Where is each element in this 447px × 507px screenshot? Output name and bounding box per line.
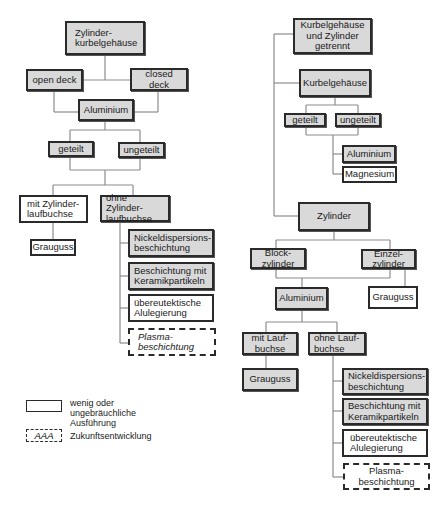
- node-ungeteilt-right: ungeteilt: [335, 113, 381, 127]
- node-nickeldispersion-right: Nickeldispersions- beschichtung: [342, 368, 428, 395]
- node-uebereutektisch-left: übereutektische Alulegierung: [128, 294, 214, 322]
- node-closed-deck: closed deck: [130, 68, 188, 91]
- legend-future-swatch: AAA: [26, 429, 62, 442]
- diagram-canvas: Zylinder- kurbelgehäuse open deck closed…: [0, 0, 447, 507]
- node-nickeldispersion-left: Nickeldispersions- beschichtung: [128, 229, 214, 257]
- node-uebereutektisch-right: übereutektische Alulegierung: [342, 429, 428, 457]
- node-mit-zylinderlaufbuchse: mit Zylinder- laufbuchse: [19, 195, 88, 223]
- node-aluminium-kurbel: Aluminium: [342, 145, 396, 163]
- node-einzelzylinder: Einzel- zylinder: [361, 249, 416, 269]
- node-ungeteilt-left: ungeteilt: [118, 142, 165, 158]
- node-keramik-left: Beschichtung mit Keramikpartikeln: [128, 262, 214, 290]
- legend-rare-swatch: [26, 400, 62, 412]
- node-plasma-right: Plasma- beschichtung: [343, 463, 430, 490]
- node-grauguss-block: Grauguss: [242, 368, 298, 391]
- node-zylinder: Zylinder: [298, 202, 370, 231]
- node-getrennt-root: Kurbelgehäuse und Zylinder getrennt: [293, 18, 372, 54]
- node-zylinderkurbelgehaeuse: Zylinder- kurbelgehäuse: [65, 21, 145, 55]
- node-aluminium-zylinder: Aluminium: [275, 287, 328, 310]
- node-grauguss-left: Grauguss: [30, 239, 76, 256]
- node-mit-laufbuchse: mit Lauf- buchse: [242, 332, 298, 355]
- node-open-deck: open deck: [26, 69, 83, 91]
- node-keramik-right: Beschichtung mit Keramikpartikeln: [342, 398, 428, 425]
- node-blockzylinder: Block- zylinder: [250, 248, 306, 269]
- node-ohne-zylinderlaufbuchse: ohne Zylinder- laufbuchse: [100, 195, 170, 222]
- node-kurbelgehaeuse: Kurbelgehäuse: [299, 69, 371, 97]
- node-plasma-left: Plasma- beschichtung: [128, 328, 216, 356]
- node-aluminium-left: Aluminium: [78, 99, 134, 121]
- legend-future-label: Zukunftsentwicklung: [70, 431, 152, 441]
- node-grauguss-einzel: Grauguss: [368, 286, 418, 309]
- node-geteilt-right: geteilt: [284, 113, 326, 127]
- node-magnesium: Magnesium: [342, 166, 397, 183]
- node-geteilt-left: geteilt: [48, 141, 94, 157]
- legend-rare-label: wenig oder ungebräuchliche Ausführung: [70, 398, 136, 428]
- node-ohne-laufbuchse: ohne Lauf- buchse: [308, 332, 366, 355]
